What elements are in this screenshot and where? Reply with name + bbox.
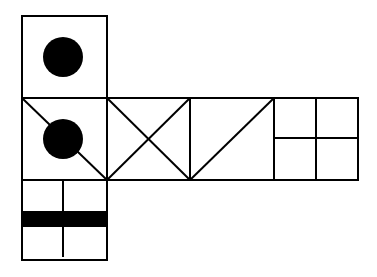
face-row-1 [22,98,107,180]
face-bottom [22,180,107,260]
black-bar [22,211,107,227]
face-row-3 [190,98,274,180]
cube-net-diagram [0,0,377,277]
filled-circle-icon [43,119,83,159]
face-row-2 [107,98,190,180]
face-top [22,16,107,98]
filled-circle-icon [43,37,83,77]
face-row-4 [274,98,358,180]
